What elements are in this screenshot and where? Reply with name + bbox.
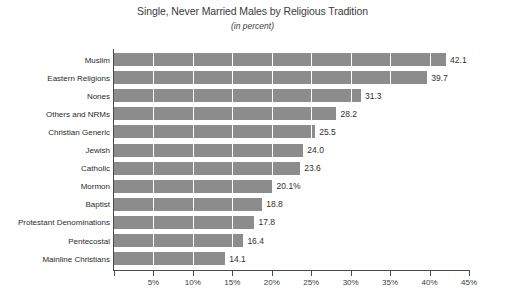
bar-value-label: 20.1% bbox=[273, 181, 301, 191]
gridline bbox=[311, 53, 312, 66]
plot-area: 42.139.731.328.225.524.023.620.1%18.817.… bbox=[114, 53, 469, 270]
x-axis-tick-label: 10% bbox=[185, 278, 201, 287]
category-label: Mainline Christians bbox=[0, 254, 110, 263]
category-label: Catholic bbox=[0, 164, 110, 173]
bar-value-label: 42.1 bbox=[446, 55, 467, 65]
bar-value-label: 14.1 bbox=[225, 254, 246, 264]
category-label: Others and NRMs bbox=[0, 109, 110, 118]
gridline bbox=[232, 53, 233, 66]
category-label: Muslim bbox=[0, 55, 110, 64]
category-label: Eastern Religions bbox=[0, 73, 110, 82]
gridline bbox=[232, 198, 233, 211]
gridline bbox=[272, 89, 273, 102]
bar-row: 17.8 bbox=[114, 216, 469, 229]
gridline bbox=[193, 180, 194, 193]
bar-value-label: 18.8 bbox=[262, 199, 283, 209]
bar-value-label: 17.8 bbox=[254, 217, 275, 227]
gridline bbox=[153, 71, 154, 84]
gridline bbox=[311, 125, 312, 138]
x-axis-tick-label: 20% bbox=[264, 278, 280, 287]
gridline bbox=[193, 71, 194, 84]
gridline bbox=[153, 234, 154, 247]
gridline bbox=[193, 234, 194, 247]
gridline bbox=[232, 162, 233, 175]
x-axis-tick bbox=[114, 271, 115, 276]
gridline bbox=[272, 53, 273, 66]
bar-row: 24.0 bbox=[114, 144, 469, 157]
bar bbox=[114, 234, 243, 247]
gridline bbox=[272, 144, 273, 157]
category-label: Jewish bbox=[0, 146, 110, 155]
bar bbox=[114, 198, 262, 211]
x-axis-tick bbox=[469, 271, 470, 276]
gridline bbox=[193, 198, 194, 211]
gridline bbox=[232, 216, 233, 229]
category-label: Nones bbox=[0, 91, 110, 100]
x-axis-tick-label: 5% bbox=[148, 278, 160, 287]
bar bbox=[114, 71, 427, 84]
category-label: Christian Generic bbox=[0, 127, 110, 136]
gridline bbox=[193, 216, 194, 229]
bar bbox=[114, 53, 446, 66]
x-axis-tick-label: 30% bbox=[343, 278, 359, 287]
gridline bbox=[351, 53, 352, 66]
gridline bbox=[153, 198, 154, 211]
bar-row: 31.3 bbox=[114, 89, 469, 102]
bar-row: 39.7 bbox=[114, 71, 469, 84]
bar-value-label: 28.2 bbox=[336, 109, 357, 119]
gridline bbox=[153, 125, 154, 138]
gridline bbox=[193, 162, 194, 175]
bar-value-label: 39.7 bbox=[427, 73, 448, 83]
gridline bbox=[232, 89, 233, 102]
gridline bbox=[193, 89, 194, 102]
gridline bbox=[193, 252, 194, 265]
category-label: Mormon bbox=[0, 182, 110, 191]
chart-container: Single, Never Married Males by Religious… bbox=[0, 0, 505, 307]
x-axis-tick bbox=[351, 271, 352, 276]
gridline bbox=[390, 71, 391, 84]
x-axis-tick bbox=[272, 271, 273, 276]
gridline bbox=[153, 144, 154, 157]
gridline bbox=[232, 144, 233, 157]
gridline bbox=[272, 125, 273, 138]
gridline bbox=[153, 216, 154, 229]
category-label: Pentecostal bbox=[0, 236, 110, 245]
bar bbox=[114, 216, 254, 229]
x-axis-tick-label: 40% bbox=[422, 278, 438, 287]
bar-value-label: 16.4 bbox=[243, 236, 264, 246]
bar-value-label: 24.0 bbox=[303, 145, 324, 155]
bar-value-label: 23.6 bbox=[300, 163, 321, 173]
gridline bbox=[153, 162, 154, 175]
gridline bbox=[232, 71, 233, 84]
gridline bbox=[311, 107, 312, 120]
bar-row: 28.2 bbox=[114, 107, 469, 120]
x-axis-tick bbox=[311, 271, 312, 276]
gridline bbox=[153, 252, 154, 265]
gridline bbox=[272, 107, 273, 120]
x-axis-tick-label: 35% bbox=[382, 278, 398, 287]
chart-subtitle: (in percent) bbox=[0, 21, 505, 31]
bar bbox=[114, 144, 303, 157]
bar-row: 14.1 bbox=[114, 252, 469, 265]
bar bbox=[114, 252, 225, 265]
bar-row: 20.1% bbox=[114, 180, 469, 193]
gridline bbox=[351, 89, 352, 102]
gridline bbox=[193, 125, 194, 138]
x-axis-line bbox=[113, 270, 470, 271]
gridline bbox=[232, 234, 233, 247]
bar-value-label: 25.5 bbox=[315, 127, 336, 137]
bar-row: 18.8 bbox=[114, 198, 469, 211]
gridline bbox=[311, 89, 312, 102]
gridline bbox=[153, 107, 154, 120]
x-axis-tick bbox=[430, 271, 431, 276]
bar bbox=[114, 107, 336, 120]
gridline bbox=[232, 107, 233, 120]
bar bbox=[114, 125, 315, 138]
x-axis-tick-label: 25% bbox=[303, 278, 319, 287]
x-axis-tick bbox=[232, 271, 233, 276]
bar-row: 23.6 bbox=[114, 162, 469, 175]
gridline bbox=[272, 71, 273, 84]
gridline bbox=[390, 53, 391, 66]
gridline bbox=[153, 53, 154, 66]
gridline bbox=[311, 71, 312, 84]
